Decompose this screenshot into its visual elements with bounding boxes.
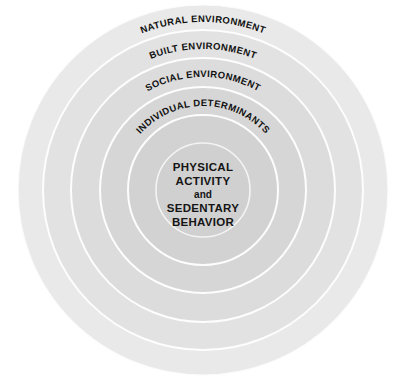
socio-ecological-diagram: NATURAL ENVIRONMENT BUILT ENVIRONMENT SO… [0, 0, 406, 383]
core-line-sedentary: SEDENTARY [167, 202, 239, 214]
core-line-activity: ACTIVITY [176, 175, 231, 187]
concentric-rings-graphic: NATURAL ENVIRONMENT BUILT ENVIRONMENT SO… [0, 0, 406, 383]
core-line-and: and [194, 189, 212, 200]
core-line-behavior: BEHAVIOR [172, 216, 235, 228]
core-line-physical: PHYSICAL [173, 161, 234, 173]
